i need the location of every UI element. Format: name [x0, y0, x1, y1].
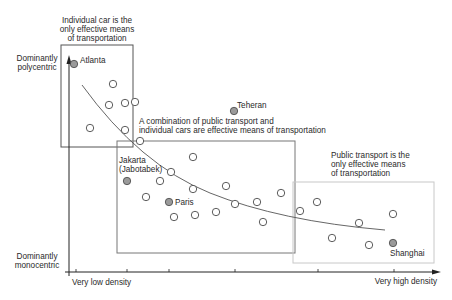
- city-point: [355, 219, 362, 226]
- x-low-label: Very low density: [72, 278, 132, 287]
- city-point: [296, 207, 303, 214]
- city-paris-point: [165, 198, 172, 205]
- x-axis-arrow-icon: [432, 270, 441, 275]
- x-high-label: Very high density: [375, 277, 438, 286]
- city-point: [156, 177, 163, 184]
- y-bottom-label-2: monocentric: [15, 261, 60, 270]
- jakarta-label-2: (Jabotabek): [119, 165, 163, 174]
- teheran-label: Teheran: [237, 101, 267, 110]
- city-point: [365, 241, 372, 248]
- atlanta-label: Atlanta: [80, 56, 106, 65]
- city-point: [259, 218, 266, 225]
- city-point: [231, 200, 238, 207]
- public-zone-label-1: Public transport is the: [331, 151, 410, 160]
- city-point: [136, 137, 143, 144]
- car-zone-label-2: only effective means: [60, 25, 135, 34]
- public-zone-label-2: only effective means: [331, 160, 406, 169]
- y-bottom-label-1: Dominantly: [17, 252, 59, 261]
- city-point: [212, 208, 219, 215]
- shanghai-label: Shanghai: [390, 249, 425, 258]
- city-point: [109, 80, 116, 87]
- city-point: [253, 198, 260, 205]
- city-point: [121, 99, 128, 106]
- density-structure-diagram: Individual car is the only effective mea…: [0, 0, 452, 300]
- city-point: [121, 126, 128, 133]
- city-point: [86, 124, 93, 131]
- city-point: [191, 211, 198, 218]
- city-point: [142, 193, 149, 200]
- car-zone-label-1: Individual car is the: [62, 16, 133, 25]
- city-point: [189, 153, 196, 160]
- city-point: [328, 234, 335, 241]
- city-point: [277, 189, 284, 196]
- city-point: [389, 210, 396, 217]
- y-top-label-2: polycentric: [17, 63, 56, 72]
- city-point: [105, 101, 112, 108]
- y-top-label-1: Dominantly: [17, 54, 59, 63]
- city-point: [189, 185, 196, 192]
- city-point: [167, 168, 174, 175]
- city-point: [170, 213, 177, 220]
- city-shanghai-point: [389, 239, 396, 246]
- city-point: [222, 182, 229, 189]
- mixed-zone-label-1: A combination of public transport and: [139, 117, 274, 126]
- city-point: [131, 98, 138, 105]
- paris-label: Paris: [175, 198, 194, 207]
- car-zone-label-3: of transportation: [67, 34, 127, 43]
- city-jakarta-point: [123, 177, 130, 184]
- city-point: [313, 198, 320, 205]
- mixed-zone-label-2: individual cars are effective means of t…: [139, 126, 326, 135]
- jakarta-label-1: Jakarta: [119, 156, 146, 165]
- city-atlanta-point: [70, 60, 77, 67]
- public-zone-label-3: of transportation: [331, 169, 391, 178]
